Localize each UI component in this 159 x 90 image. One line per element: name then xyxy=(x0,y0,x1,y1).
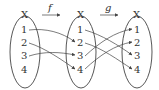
set-3-element-3: 3 xyxy=(134,50,140,61)
set-2-element-4: 4 xyxy=(77,64,83,75)
set-1-element-4: 4 xyxy=(21,64,27,75)
function-f-label: f xyxy=(47,2,54,13)
arrow-f-1-to-2 xyxy=(29,30,75,43)
set-3-element-4: 4 xyxy=(134,64,140,75)
set-1-element-3: 3 xyxy=(21,50,27,61)
function-g-label: g xyxy=(105,2,111,13)
set-2-label: X xyxy=(77,9,85,20)
arrow-g-3-to-1 xyxy=(85,29,132,56)
set-1-element-2: 2 xyxy=(21,37,27,48)
set-3-element-2: 2 xyxy=(134,37,140,48)
mapping-diagram: X X X f g 1 2 3 4 1 2 3 4 1 2 3 4 xyxy=(0,0,159,90)
set-2-element-3: 3 xyxy=(77,50,83,61)
set-2-element-2: 2 xyxy=(77,37,83,48)
set-2-element-1: 1 xyxy=(77,24,83,35)
set-3-element-1: 1 xyxy=(134,24,140,35)
set-1-label: X xyxy=(21,9,29,20)
arrow-g-4-to-2 xyxy=(85,42,132,69)
arrow-g-2-to-4 xyxy=(85,43,132,69)
set-1-element-1: 1 xyxy=(21,24,27,35)
set-3-label: X xyxy=(133,9,141,20)
arrow-f-2-to-4 xyxy=(29,43,75,69)
